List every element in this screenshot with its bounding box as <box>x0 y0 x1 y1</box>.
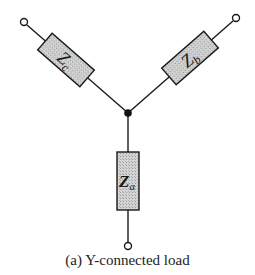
terminal-c <box>21 19 28 26</box>
neutral-node <box>124 109 132 117</box>
terminal-a <box>125 243 132 250</box>
branch-zc: Zc <box>21 19 129 114</box>
figure-caption: (a) Y-connected load <box>0 252 255 269</box>
branch-zb: Zb <box>128 15 240 114</box>
y-connected-load-diagram: Zc Zb Za <box>0 0 255 275</box>
branch-za: Za <box>117 113 139 250</box>
terminal-b <box>233 15 240 22</box>
